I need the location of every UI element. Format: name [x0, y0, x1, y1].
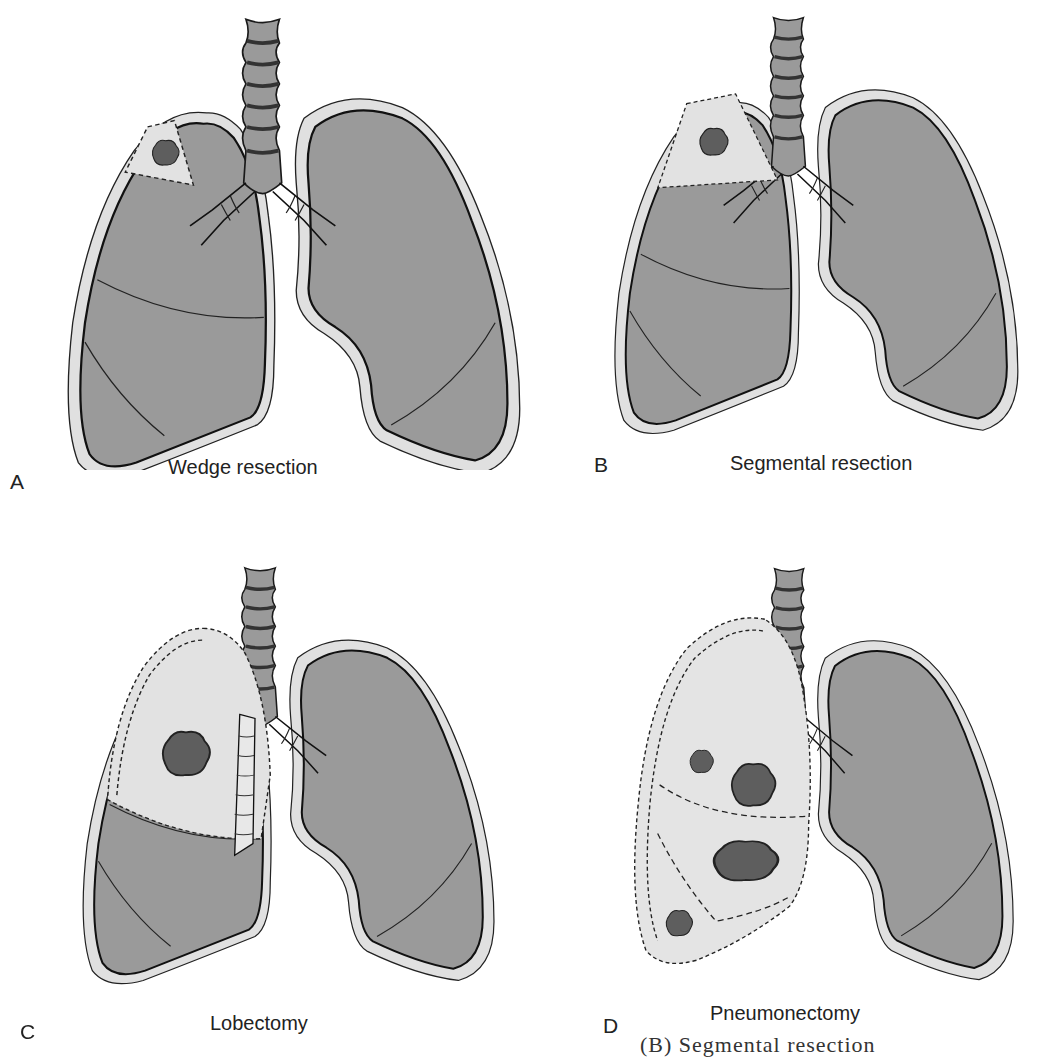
- panel-d-pneumonectomy: D Pneumonectomy: [570, 560, 1057, 1030]
- panel-letter-a: A: [10, 470, 24, 494]
- caption-segmental-resection: Segmental resection: [730, 452, 912, 475]
- panel-b-segmental-resection: B Segmental resection: [560, 0, 1057, 500]
- caption-wedge-resection: Wedge resection: [168, 456, 318, 479]
- panel-letter-b: B: [594, 453, 608, 477]
- panel-letter-d: D: [603, 1014, 618, 1038]
- lung-diagram-a: [0, 0, 528, 470]
- panel-a-wedge-resection: A Wedge resection: [0, 0, 528, 500]
- caption-lobectomy: Lobectomy: [210, 1012, 308, 1035]
- cutoff-caption-text: (B) Segmental resection: [640, 1032, 876, 1058]
- caption-pneumonectomy: Pneumonectomy: [710, 1002, 860, 1025]
- lung-diagram-c: [0, 560, 528, 1000]
- panel-letter-c: C: [20, 1020, 35, 1044]
- lung-diagram-d: [570, 560, 1057, 1000]
- panel-c-lobectomy: C Lobectomy: [0, 560, 528, 1050]
- lung-diagram-b: [560, 0, 1057, 440]
